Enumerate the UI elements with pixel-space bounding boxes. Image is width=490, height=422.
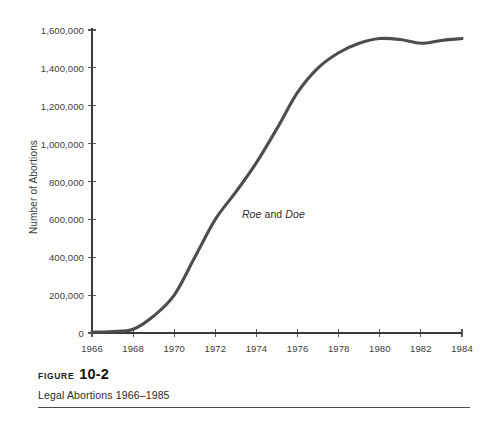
x-tick-label: 1972 [205, 343, 227, 354]
y-tick-label: 1,600,000 [41, 25, 84, 36]
axis-ticks [88, 30, 462, 337]
caption-divider [38, 407, 470, 408]
x-tick-label: 1976 [287, 343, 309, 354]
figure-caption-text: Legal Abortions 1966–1985 [38, 389, 470, 401]
x-tick-label: 1980 [369, 343, 391, 354]
y-tick-label: 600,000 [49, 214, 84, 225]
figure-label-row: FIGURE 10-2 [38, 366, 470, 382]
data-series-line [92, 38, 462, 332]
x-tick-label: 1966 [81, 343, 103, 354]
x-tick-label: 1984 [451, 343, 473, 354]
x-tick-label: 1978 [328, 343, 350, 354]
annotation-case-doe: Doe [285, 208, 305, 220]
roe-and-doe-annotation: Roe and Doe [242, 208, 305, 220]
x-tick-label: 1982 [410, 343, 432, 354]
y-tick-label: 800,000 [49, 176, 84, 187]
y-tick-label: 400,000 [49, 252, 84, 263]
chart-plot-area: Number of Abortions 0200,000400,000600,0… [0, 0, 490, 360]
figure-10-2: Number of Abortions 0200,000400,000600,0… [0, 0, 490, 422]
figure-caption-block: FIGURE 10-2 Legal Abortions 1966–1985 [38, 366, 470, 408]
x-tick-label: 1970 [163, 343, 185, 354]
y-tick-label: 1,000,000 [41, 138, 84, 149]
y-tick-label: 1,400,000 [41, 62, 84, 73]
figure-word: FIGURE [38, 371, 74, 381]
y-tick-label: 0 [79, 328, 84, 339]
annotation-conjunction: and [261, 208, 285, 220]
x-tick-label: 1974 [246, 343, 268, 354]
annotation-case-roe: Roe [242, 208, 262, 220]
y-tick-label: 200,000 [49, 290, 84, 301]
y-tick-label: 1,200,000 [41, 100, 84, 111]
figure-number: 10-2 [79, 366, 109, 382]
x-tick-label: 1968 [122, 343, 144, 354]
